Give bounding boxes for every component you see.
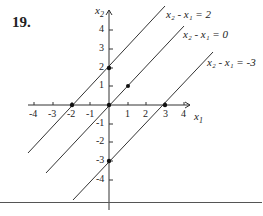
y-tick: 4 <box>99 23 104 34</box>
x-tick: -2 <box>67 108 75 119</box>
x-tick: 2 <box>143 108 148 119</box>
line-label: x₂ - x₁ = -3 <box>207 56 256 68</box>
x-tick: -4 <box>29 108 37 119</box>
y-axis-label: x2 <box>95 4 104 19</box>
y-tick: -3 <box>96 154 104 165</box>
divider <box>0 202 262 203</box>
line-x2-x1-eq-2 <box>28 6 165 153</box>
y-tick: 3 <box>99 42 104 53</box>
line-x2-x1-eq-neg3 <box>73 52 213 200</box>
y-tick: -1 <box>96 117 104 128</box>
line-x2-x1-eq-0 <box>46 26 184 173</box>
x-tick: -1 <box>86 108 94 119</box>
y-tick: 2 <box>99 61 104 72</box>
line-label: x₂ - x₁ = 2 <box>166 8 211 20</box>
y-tick: 1 <box>99 79 104 90</box>
x-axis-label: x1 <box>194 110 203 125</box>
x-tick: 3 <box>163 108 168 119</box>
x-tick: -3 <box>48 108 56 119</box>
line-label: x₂ - x₁ = 0 <box>183 28 228 40</box>
y-tick: -2 <box>96 135 104 146</box>
y-tick: -4 <box>96 173 104 184</box>
x-tick: 4 <box>181 108 186 119</box>
x-tick: 1 <box>125 108 130 119</box>
